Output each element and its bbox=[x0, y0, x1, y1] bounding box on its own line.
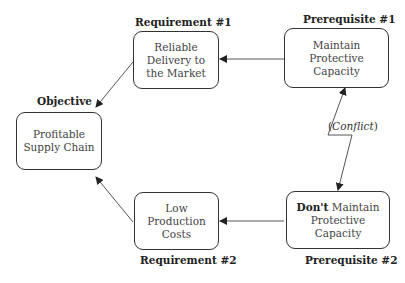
prerequisite2-box: Don't MaintainProtectiveCapacity bbox=[286, 191, 390, 249]
requirement2-box: LowProductionCosts bbox=[134, 192, 219, 250]
requirement1-text-2: Delivery to bbox=[147, 54, 205, 66]
prerequisite2-text-2: Protective bbox=[311, 214, 365, 226]
requirement1-text-1: Reliable bbox=[154, 41, 197, 53]
requirement2-text-1: Low bbox=[165, 202, 187, 214]
objective-box: ProfitableSupply Chain bbox=[16, 112, 102, 170]
prerequisite1-label: Prerequisite #1 bbox=[303, 13, 395, 25]
prerequisite2-text-3: Capacity bbox=[315, 227, 362, 239]
prerequisite2-label: Prerequisite #2 bbox=[305, 254, 397, 266]
objective-label: Objective bbox=[37, 95, 92, 107]
prerequisite2-text-1: Maintain bbox=[328, 201, 379, 213]
prerequisite1-text-1: Maintain bbox=[313, 39, 361, 51]
prerequisite1-text-3: Capacity bbox=[313, 65, 360, 77]
objective-text-2: Supply Chain bbox=[23, 141, 94, 153]
conflict-word: Conflict bbox=[332, 120, 374, 132]
prerequisite1-box: MaintainProtectiveCapacity bbox=[284, 28, 389, 88]
requirement2-text-2: Production bbox=[147, 215, 205, 227]
objective-text-1: Profitable bbox=[33, 128, 85, 140]
requirement1-box: ReliableDelivery tothe Market bbox=[133, 31, 219, 89]
requirement2-label: Requirement #2 bbox=[140, 254, 237, 266]
prerequisite2-dont: Don't bbox=[297, 201, 329, 213]
requirement1-label: Requirement #1 bbox=[135, 16, 232, 28]
requirement2-text-3: Costs bbox=[162, 228, 191, 240]
requirement1-text-3: the Market bbox=[146, 67, 205, 79]
conflict-label: (Conflict) bbox=[328, 120, 378, 132]
prerequisite1-text-2: Protective bbox=[309, 52, 363, 64]
